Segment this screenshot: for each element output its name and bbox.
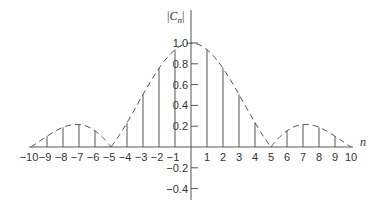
y-tick-label: 0.6 [173,79,188,91]
abs-bar-close: | [182,9,184,23]
x-tick-label: −5 [103,151,116,163]
envelope-segment [31,124,111,147]
x-tick-label: −1 [167,151,180,163]
x-tick-label: −4 [119,151,132,163]
x-tick-label: 4 [252,151,258,163]
x-tick-label: 2 [220,151,226,163]
x-tick-label: 1 [204,151,210,163]
envelope-segment [271,124,351,147]
y-tick-label: −0.4 [166,183,188,195]
y-tick-label: 0.4 [173,99,188,111]
y-tick-label: 0.2 [173,120,188,132]
x-tick-label: −2 [151,151,164,163]
x-tick-label: −7 [71,151,84,163]
x-tick-label: 8 [316,151,322,163]
y-axis-title: |Cn| [167,9,184,25]
x-tick-label: 5 [268,151,274,163]
x-tick-label: −8 [55,151,68,163]
x-tick-label: −9 [39,151,52,163]
x-tick-label: −10 [20,151,39,163]
y-tick-label: 1.0 [173,37,188,49]
x-tick-label: 6 [284,151,290,163]
y-ticks: 1.00.80.60.40.2−0.2−0.4 [166,37,198,195]
x-tick-label: 7 [300,151,306,163]
x-tick-label: 10 [345,151,357,163]
x-axis-title: n [360,135,366,149]
y-tick-label: −0.2 [166,162,188,174]
stem-chart: 1.00.80.60.40.2−0.2−0.4 −10−9−8−7−6−5−4−… [0,0,383,206]
x-tick-labels: −10−9−8−7−6−5−4−3−2−112345678910 [20,151,357,163]
x-tick-label: −6 [87,151,100,163]
x-tick-label: 9 [332,151,338,163]
x-tick-label: 3 [236,151,242,163]
y-tick-label: 0.8 [173,58,188,70]
x-tick-label: −3 [135,151,148,163]
